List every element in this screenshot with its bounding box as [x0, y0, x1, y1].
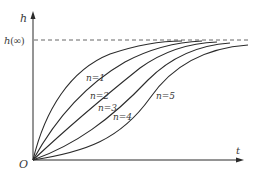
x-axis-label: t: [236, 145, 241, 156]
curve-label-n2: n=2: [90, 91, 109, 101]
curve-label-n1: n=1: [86, 73, 105, 83]
curve-label-n5: n=5: [156, 91, 175, 101]
x-axis-arrow-icon: [236, 158, 244, 163]
curve-n4: [33, 43, 230, 160]
asymptote-label-arg: (∞): [10, 35, 24, 47]
asymptote-label: h(∞): [4, 35, 24, 47]
y-axis-label: h: [20, 12, 27, 25]
y-axis-arrow-icon: [31, 11, 36, 19]
origin-label: O: [19, 158, 28, 171]
curve-label-n4: n=4: [113, 112, 132, 122]
curve-n3: [33, 42, 217, 160]
curve-n5: [33, 45, 248, 160]
response-curves-diagram: h t O h(∞) n=1 n=2 n=3 n=4 n=5: [0, 0, 257, 176]
